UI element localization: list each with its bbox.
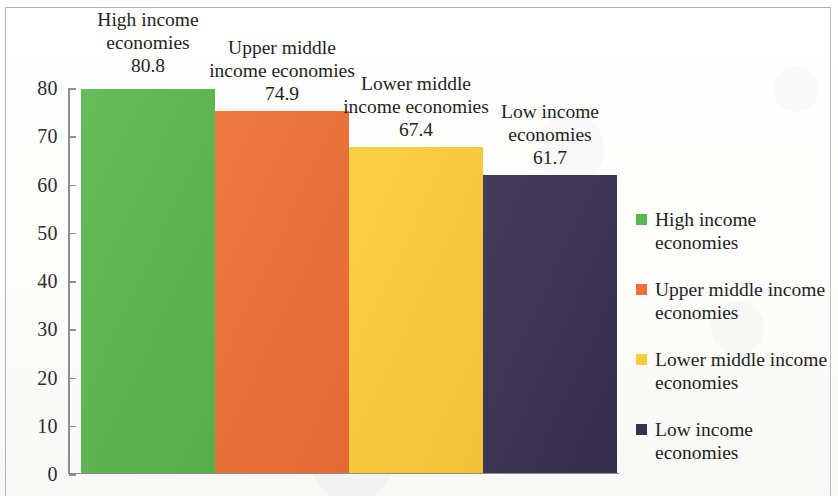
legend-item[interactable]: High income economies <box>636 208 836 254</box>
y-axis-tick-mark <box>69 233 76 235</box>
legend-item[interactable]: Low income economies <box>636 418 836 464</box>
bar-rect[interactable] <box>81 89 215 473</box>
chart-screenshot: 01020304050607080 High income economies … <box>0 0 838 496</box>
bar-category-label: Lower middle income economies <box>343 73 489 117</box>
y-axis-tick-label: 0 <box>48 463 58 486</box>
chart-frame: 01020304050607080 High income economies … <box>5 7 831 496</box>
legend-label: High income economies <box>655 208 836 254</box>
y-axis-tick-label: 60 <box>37 173 58 196</box>
bar-category-label: Upper middle income economies <box>209 37 355 81</box>
chart-legend: High income economiesUpper middle income… <box>636 208 836 488</box>
y-axis-tick-label: 70 <box>37 125 58 148</box>
y-axis-tick-mark <box>69 378 76 380</box>
bar-rect[interactable] <box>215 111 349 472</box>
y-axis-tick-mark <box>69 185 76 187</box>
bar-group: High income economies 80.8Upper middle i… <box>81 89 617 473</box>
legend-color-swatch <box>636 284 647 295</box>
legend-item[interactable]: Upper middle income economies <box>636 278 836 324</box>
legend-color-swatch <box>636 354 647 365</box>
y-axis-tick-mark <box>69 329 76 331</box>
bar-column[interactable]: High income economies 80.8 <box>81 89 215 473</box>
legend-color-swatch <box>636 214 647 225</box>
y-axis-tick-label: 50 <box>37 221 58 244</box>
legend-color-swatch <box>636 424 647 435</box>
bar-rect[interactable] <box>349 147 483 472</box>
legend-item[interactable]: Lower middle income economies <box>636 348 836 394</box>
y-axis-tick-label: 40 <box>37 270 58 293</box>
legend-label: Lower middle income economies <box>655 348 836 394</box>
bar-column[interactable]: Upper middle income economies 74.9 <box>215 89 349 473</box>
bar-category-label: High income economies <box>97 9 198 53</box>
bar-rect[interactable] <box>483 175 617 473</box>
bar-column[interactable]: Low income economies 61.7 <box>483 89 617 473</box>
bar-column[interactable]: Lower middle income economies 67.4 <box>349 89 483 473</box>
y-axis-tick-mark <box>69 88 76 90</box>
bar-value-label: 61.7 <box>470 146 630 169</box>
y-axis-tick-mark <box>69 426 76 428</box>
legend-label: Upper middle income economies <box>655 278 836 324</box>
y-axis-tick-mark <box>69 136 76 138</box>
y-axis-tick-label: 80 <box>37 77 58 100</box>
y-axis-tick-mark <box>69 281 76 283</box>
y-axis-tick-label: 30 <box>37 318 58 341</box>
y-axis-tick-label: 20 <box>37 366 58 389</box>
bar-label: Low income economies 61.7 <box>470 100 630 169</box>
y-axis-tick-label: 10 <box>37 414 58 437</box>
y-axis-tick-mark <box>69 474 76 476</box>
legend-label: Low income economies <box>655 418 836 464</box>
bar-category-label: Low income economies <box>501 101 599 145</box>
plot-area: 01020304050607080 High income economies … <box>68 88 619 474</box>
x-axis-baseline <box>68 473 619 475</box>
